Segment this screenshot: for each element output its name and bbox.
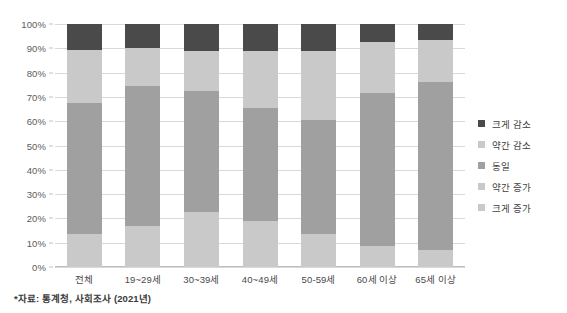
bar-segment[interactable] [301,120,336,234]
bar-segment[interactable] [360,42,395,93]
bar-segment[interactable] [301,234,336,263]
x-tick-label: 50-59세 [302,272,336,286]
bar-stack [67,24,102,267]
chart-root: 0%10%20%30%40%50%60%70%80%90%100% 전체19~2… [0,0,567,313]
legend-swatch-icon [478,183,485,190]
bar-segment[interactable] [360,261,395,267]
y-tick-label: 70% [27,91,46,102]
y-tick-label: 60% [27,116,46,127]
y-tick-mark [49,48,53,49]
source-footnote: *자료: 통계청, 사회조사 (2021년) [14,291,151,305]
y-tick-mark [49,24,53,25]
bar-segment[interactable] [418,82,453,250]
bar-segment[interactable] [243,221,278,264]
x-tick-label: 40~49세 [242,272,278,286]
y-tick-label: 50% [27,140,46,151]
y-tick-mark [49,242,53,243]
x-tick-label: 전체 [75,272,93,286]
y-tick-mark [49,169,53,170]
bar-segment[interactable] [67,263,102,267]
bar-segment[interactable] [243,51,278,108]
y-tick-mark [49,267,53,268]
legend-item[interactable]: 약간 감소 [478,134,564,155]
bar-segment[interactable] [301,263,336,267]
bar-segment[interactable] [360,24,395,42]
bar-segment[interactable] [418,24,453,40]
bar-segment[interactable] [67,50,102,103]
y-tick-label: 10% [27,237,46,248]
y-tick-label: 20% [27,213,46,224]
y-tick-label: 40% [27,164,46,175]
y-tick-mark [49,96,53,97]
y-tick-label: 80% [27,67,46,78]
bar-segment[interactable] [125,48,160,86]
bar-segment[interactable] [301,51,336,120]
y-tick-mark [49,194,53,195]
bar-stack [360,24,395,267]
y-tick-label: 90% [27,43,46,54]
legend-label: 약간 감소 [492,138,531,152]
legend-item[interactable]: 크게 증가 [478,197,564,218]
bar-stack [184,24,219,267]
legend-item[interactable]: 동일 [478,155,564,176]
x-tick-label: 30~39세 [183,272,219,286]
y-tick-mark [49,72,53,73]
bar-segment[interactable] [184,24,219,51]
bar-group[interactable] [184,24,219,267]
bar-segment[interactable] [243,24,278,51]
bar-stack [243,24,278,267]
y-tick-mark [49,145,53,146]
bar-stack [301,24,336,267]
bar-segment[interactable] [301,24,336,51]
bar-segment[interactable] [418,250,453,261]
x-tick-label: 60세 이상 [357,272,398,286]
bar-stack [418,24,453,267]
x-tick-label: 19~29세 [125,272,161,286]
gridline [55,267,465,268]
bar-segment[interactable] [418,40,453,83]
legend-label: 크게 증가 [492,201,531,215]
y-axis: 0%10%20%30%40%50%60%70%80%90%100% [0,0,55,313]
plot-area [55,24,465,267]
y-tick-mark [49,121,53,122]
bar-group[interactable] [418,24,453,267]
bar-segment[interactable] [418,261,453,267]
bar-segment[interactable] [243,108,278,221]
bar-group[interactable] [67,24,102,267]
bar-segment[interactable] [125,86,160,226]
chart-legend: 크게 감소약간 감소동일약간 증가크게 증가 [478,113,564,218]
y-tick-label: 0% [32,262,46,273]
x-tick-label: 65세 이상 [415,272,456,286]
bar-segment[interactable] [125,262,160,267]
legend-item[interactable]: 크게 감소 [478,113,564,134]
y-tick-label: 100% [21,19,46,30]
legend-swatch-icon [478,120,485,127]
bar-segment[interactable] [243,263,278,267]
bar-segment[interactable] [184,212,219,263]
bar-segment[interactable] [360,246,395,261]
legend-label: 약간 증가 [492,180,531,194]
bar-segment[interactable] [184,91,219,213]
y-tick-label: 30% [27,189,46,200]
legend-swatch-icon [478,162,485,169]
bar-segment[interactable] [184,263,219,267]
legend-item[interactable]: 약간 증가 [478,176,564,197]
bar-stack [125,24,160,267]
bar-group[interactable] [301,24,336,267]
y-tick-mark [49,218,53,219]
bar-group[interactable] [125,24,160,267]
bar-segment[interactable] [125,24,160,48]
bar-segment[interactable] [125,226,160,262]
bar-segment[interactable] [360,93,395,246]
legend-label: 동일 [492,159,510,173]
legend-label: 크게 감소 [492,117,531,131]
legend-swatch-icon [478,204,485,211]
bar-segment[interactable] [67,103,102,234]
bar-group[interactable] [360,24,395,267]
bar-group[interactable] [243,24,278,267]
legend-swatch-icon [478,141,485,148]
bar-segment[interactable] [184,51,219,91]
bar-segment[interactable] [67,234,102,263]
bar-segment[interactable] [67,24,102,50]
